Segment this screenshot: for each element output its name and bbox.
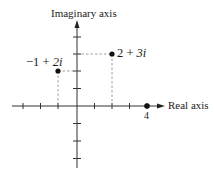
projection-lines [58,54,112,106]
real-axis-arrow-icon [157,104,165,109]
point-label-imag: 3i [137,46,147,60]
point-4 [144,103,150,109]
point-label-real: 2 [117,46,123,60]
point-2-plus-3i [109,51,114,56]
point-label-imag: 2i [53,55,63,69]
point-minus1-plus-2i [55,68,60,73]
point-label-minus1-plus-2i: −1 + 2i [26,56,62,69]
complex-plane-diagram [0,0,214,182]
point-label-real: −1 [26,55,39,69]
real-tick-label-4: 4 [144,111,149,121]
point-label-2-plus-3i: 2 + 3i [117,47,146,60]
point-label-op: + [126,46,133,60]
imaginary-axis-label: Imaginary axis [51,8,117,19]
imaginary-axis-arrow-icon [75,20,80,28]
point-label-op: + [42,55,49,69]
real-axis-label: Real axis [168,100,209,111]
